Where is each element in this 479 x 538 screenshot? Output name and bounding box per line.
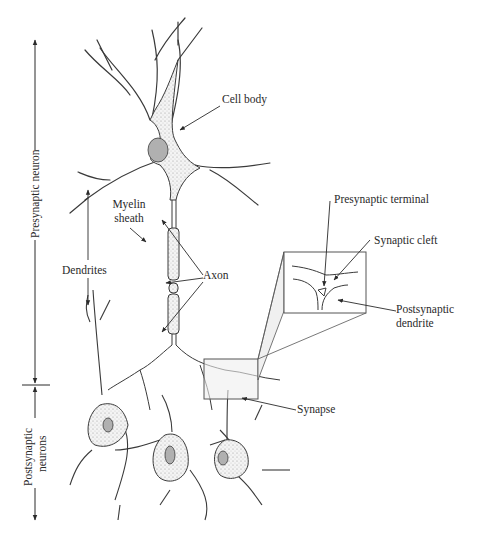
label-synaptic-cleft: Synaptic cleft — [374, 234, 438, 247]
label-presynaptic-neuron: Presynaptic neuron — [29, 150, 41, 238]
label-axon: Axon — [203, 269, 229, 282]
label-postsynaptic-neurons-1: Postsynaptic — [22, 428, 34, 486]
label-postsynaptic-dendrite-2: dendrite — [396, 317, 434, 330]
nucleus — [148, 138, 168, 162]
synapse-box — [204, 359, 258, 399]
zoom-projection — [258, 252, 284, 380]
label-synapse: Synapse — [297, 403, 335, 416]
nucleus-3 — [218, 451, 228, 465]
synapse-inset — [284, 252, 366, 313]
label-presynaptic-terminal: Presynaptic terminal — [334, 193, 429, 206]
nucleus-2 — [165, 446, 175, 464]
nucleus-1 — [103, 418, 113, 432]
label-postsynaptic-neurons-2: neurons — [36, 436, 48, 472]
label-myelin-sheath-2: sheath — [104, 212, 154, 225]
label-myelin-sheath-1: Myelin — [104, 198, 154, 211]
label-dendrites: Dendrites — [62, 264, 107, 277]
label-postsynaptic-dendrite-1: Postsynaptic — [396, 303, 454, 316]
label-cell-body: Cell body — [222, 93, 267, 106]
